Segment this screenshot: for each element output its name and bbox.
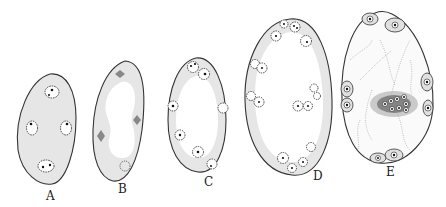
panel-a [17, 74, 76, 184]
panel-e [341, 12, 433, 164]
panel-label-c: C [204, 175, 213, 189]
panel-label-e: E [386, 165, 395, 179]
panel-label-a: A [45, 189, 55, 203]
panel-d [245, 19, 332, 175]
embryo-sac-figure: A B C D E [0, 0, 446, 207]
panel-label-d: D [313, 169, 323, 183]
panel-b [93, 61, 144, 181]
panel-c [168, 58, 228, 172]
panel-label-b: B [118, 182, 127, 196]
